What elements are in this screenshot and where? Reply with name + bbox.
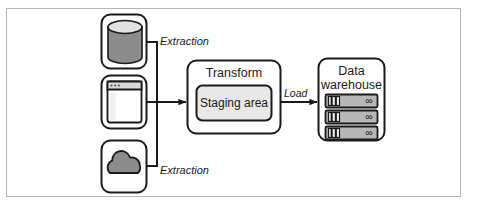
source-cloud[interactable] — [102, 141, 147, 193]
source-database[interactable] — [102, 15, 147, 69]
server-unit-indicator: ∞ — [365, 127, 372, 138]
diagram-canvas: Extraction Extraction Load Transform Sta… — [0, 0, 477, 206]
load-label: Load — [284, 87, 309, 99]
database-cylinder-icon — [108, 21, 142, 64]
server-unit-indicator: ∞ — [365, 95, 372, 106]
etl-diagram-figure: Extraction Extraction Load Transform Sta… — [0, 0, 477, 206]
extraction-top-label: Extraction — [160, 35, 209, 47]
server-unit-indicator: ∞ — [365, 111, 372, 122]
application-window-icon — [108, 82, 142, 123]
extraction-bottom-label: Extraction — [160, 164, 209, 176]
transform-title: Transform — [206, 66, 263, 80]
staging-area-label: Staging area — [200, 96, 268, 110]
source-application[interactable] — [102, 76, 147, 129]
data-warehouse-title-line2: warehouse — [320, 78, 382, 92]
data-warehouse-title-line1: Data — [338, 64, 364, 78]
